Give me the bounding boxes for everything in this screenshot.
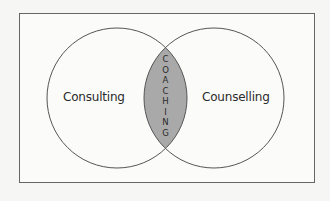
- coaching-letter: H: [162, 96, 168, 107]
- coaching-label: C O A C H I N G: [159, 54, 172, 138]
- coaching-letter: C: [163, 86, 169, 97]
- coaching-letter: N: [162, 117, 168, 128]
- consulting-label: Consulting: [63, 90, 125, 104]
- coaching-letter: I: [164, 107, 167, 118]
- coaching-letter: A: [163, 75, 169, 86]
- counselling-label: Counselling: [202, 90, 270, 104]
- coaching-letter: O: [162, 65, 169, 76]
- coaching-letter: G: [162, 128, 169, 139]
- coaching-letter: C: [163, 54, 169, 65]
